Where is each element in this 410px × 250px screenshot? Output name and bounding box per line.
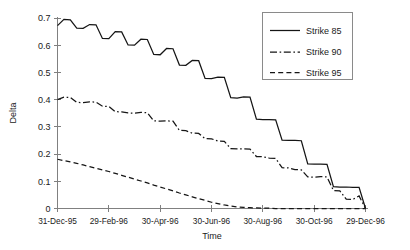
x-tick-label: 30-Aug-96 [243,216,282,226]
x-tick-label: 31-Dec-95 [38,216,77,226]
series-line-strike-95 [58,159,366,208]
legend-label: Strike 85 [306,26,342,36]
y-tick-label: 0 [45,204,50,214]
x-tick-label: 30-Oct-96 [296,216,333,226]
x-axis-tick-labels: 31-Dec-9529-Feb-9630-Apr-9630-Jun-9630-A… [38,216,385,226]
y-tick-label: 0.7 [38,13,51,23]
y-axis-tick-labels: 00.10.20.30.40.50.60.7 [38,13,51,214]
y-tick-label: 0.6 [38,41,51,51]
x-tick-label: 30-Jun-96 [193,216,231,226]
x-tick-label: 29-Dec-96 [346,216,385,226]
x-axis-title: Time [202,231,222,241]
delta-vs-time-line-chart: 00.10.20.30.40.50.60.7 31-Dec-9529-Feb-9… [0,0,410,250]
y-tick-label: 0.2 [38,149,51,159]
series-line-strike-90 [58,97,366,208]
y-tick-label: 0.3 [38,122,51,132]
chart-legend: Strike 85Strike 90Strike 95 [263,13,353,80]
y-axis-title: Delta [8,102,18,123]
legend-label: Strike 95 [306,68,342,78]
legend-label: Strike 90 [306,47,342,57]
x-tick-label: 29-Feb-96 [90,216,129,226]
chart-figure: 00.10.20.30.40.50.60.7 31-Dec-9529-Feb-9… [0,0,410,250]
x-tick-label: 30-Apr-96 [142,216,179,226]
y-tick-label: 0.5 [38,68,51,78]
y-tick-label: 0.1 [38,177,51,187]
y-tick-label: 0.4 [38,95,51,105]
